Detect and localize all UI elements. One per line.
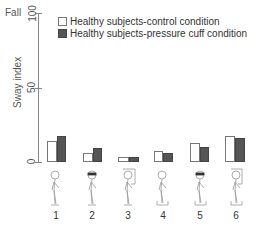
bar-cuff-6: [235, 138, 245, 162]
x-tick-label-1: 1: [46, 210, 66, 221]
bar-cuff-2: [93, 148, 102, 162]
y-tick-label-0: 0: [26, 156, 37, 168]
x-tick-label-3: 3: [118, 210, 138, 221]
x-tick-label-6: 6: [226, 210, 246, 221]
bar-cuff-1: [57, 136, 66, 162]
figure-3-icon: [123, 169, 135, 205]
figure-4-icon: [157, 171, 168, 205]
y-tick-label-100: 100: [27, 4, 38, 24]
bar-control-4: [154, 151, 163, 162]
x-tick-label-5: 5: [190, 210, 210, 221]
figure-1-icon: [51, 171, 59, 205]
bar-control-6: [225, 136, 235, 162]
y-axis-label: Sway index: [12, 57, 23, 108]
x-tick-label-4: 4: [153, 210, 173, 221]
bar-control-3: [118, 157, 129, 162]
y-tick-label-50: 50: [26, 81, 37, 95]
fall-label: Fall: [5, 7, 21, 18]
figure-2-icon: [88, 171, 96, 205]
bar-control-2: [83, 153, 93, 162]
bar-cuff-5: [200, 147, 209, 162]
x-tick-label-2: 2: [82, 210, 102, 221]
plot-area: [40, 13, 258, 162]
figure-5-icon: [195, 171, 206, 205]
bar-control-1: [47, 141, 57, 162]
bar-control-5: [190, 143, 200, 162]
figure-6-icon: [231, 169, 242, 205]
bar-cuff-4: [163, 153, 173, 162]
bar-cuff-3: [129, 157, 139, 162]
